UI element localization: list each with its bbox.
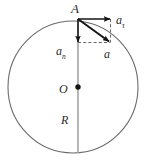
center-point-dot [75,84,80,89]
physics-circle-diagram: A aτ an a O R [0,0,148,163]
label-tangential-acceleration: aτ [116,14,125,29]
resultant-acceleration-vector [78,19,109,42]
label-point-a: A [71,2,79,15]
label-resultant-acceleration: a [104,48,110,60]
label-radius-r: R [61,114,68,126]
label-normal-subscript: n [62,52,66,61]
diagram-canvas [0,0,148,163]
label-tangential-subscript: τ [122,21,125,30]
label-center-o: O [59,83,68,95]
label-normal-acceleration: an [56,45,66,60]
circle-outline [8,21,138,153]
